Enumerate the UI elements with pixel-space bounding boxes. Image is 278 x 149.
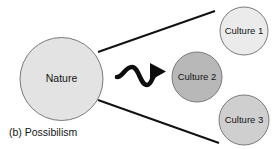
figure-caption: (b) Possibilism [9, 126, 78, 138]
nature-label: Nature [46, 72, 78, 84]
culture-2-label: Culture 2 [178, 71, 217, 82]
node-culture-2[interactable]: Culture 2 [172, 52, 222, 102]
node-culture-3[interactable]: Culture 3 [219, 95, 269, 145]
divergence-line-top [98, 11, 215, 52]
arrow-head-icon [150, 63, 166, 81]
squiggly-arrow-icon [117, 63, 166, 85]
culture-1-label: Culture 1 [225, 25, 264, 36]
divergence-line-bottom [98, 100, 219, 143]
node-nature[interactable]: Nature [20, 38, 103, 121]
node-culture-1[interactable]: Culture 1 [220, 7, 268, 55]
diagram-canvas: Nature Culture 1 Culture 2 Culture 3 (b)… [0, 0, 278, 149]
possibilism-diagram: Nature Culture 1 Culture 2 Culture 3 (b)… [0, 0, 278, 149]
culture-3-label: Culture 3 [225, 114, 264, 125]
